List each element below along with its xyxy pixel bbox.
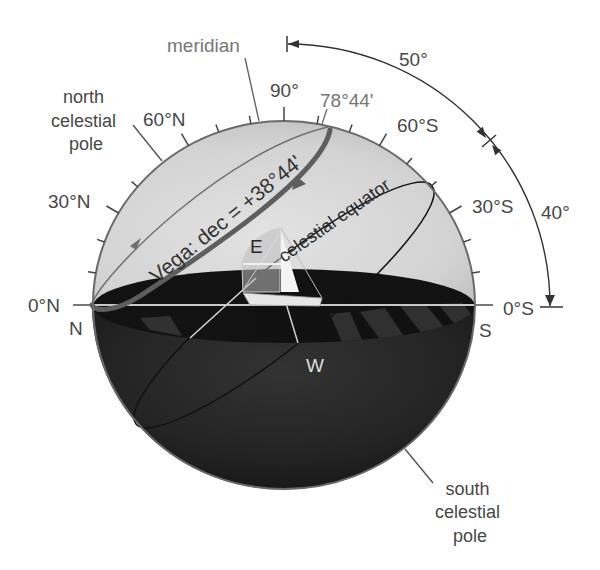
altitude-label-30n: 30°N — [48, 191, 90, 212]
altitude-tick-120 — [380, 134, 387, 146]
cardinal-south-label: S — [479, 320, 492, 341]
celestial-sphere-diagram: meridian north celestial pole 60°N 90° 7… — [0, 0, 600, 570]
altitude-label-60s: 60°S — [397, 115, 438, 136]
south-celestial-pole-pointer-line — [405, 449, 433, 483]
altitude-tick-60 — [182, 134, 189, 146]
altitude-tick-130 — [407, 158, 412, 164]
altitude-tick-170 — [472, 272, 480, 273]
altitude-tick-150 — [449, 206, 461, 213]
cardinal-east-label: E — [250, 236, 263, 257]
altitude-tick-110 — [349, 125, 352, 133]
altitude-tick-160 — [463, 239, 471, 242]
north-celestial-pole-label: north celestial pole — [51, 87, 121, 154]
altitude-label-0n: 0°N — [28, 295, 60, 316]
south-celestial-pole-label: south celestial pole — [435, 479, 505, 546]
arc-mid-arrow-up-icon — [492, 145, 501, 155]
altitude-tick-40 — [132, 182, 138, 187]
altitude-tick-10 — [88, 272, 96, 273]
north-celestial-pole-pointer-line — [133, 125, 162, 161]
altitude-tick-30 — [106, 206, 118, 213]
arc-end-arrow-icon — [545, 295, 555, 306]
altitude-tick-80 — [249, 116, 250, 124]
arc-label-50: 50° — [399, 49, 428, 70]
altitude-tick-70 — [216, 125, 219, 133]
arc-label-40: 40° — [541, 202, 570, 223]
vega-max-altitude-label: 78°44' — [320, 90, 374, 111]
altitude-label-30s: 30°S — [472, 196, 513, 217]
cardinal-west-label: W — [306, 355, 324, 376]
altitude-label-0s: 0°S — [503, 298, 534, 319]
vega-max-altitude-tick — [322, 109, 327, 124]
meridian-label: meridian — [167, 35, 240, 56]
altitude-tick-100 — [317, 116, 318, 124]
altitude-label-90: 90° — [270, 80, 299, 101]
cardinal-north-label: N — [69, 318, 83, 339]
arc-start-arrow-icon — [288, 40, 299, 48]
altitude-label-60n: 60°N — [143, 109, 185, 130]
meridian-pointer-line — [245, 58, 259, 121]
altitude-tick-20 — [97, 239, 105, 242]
